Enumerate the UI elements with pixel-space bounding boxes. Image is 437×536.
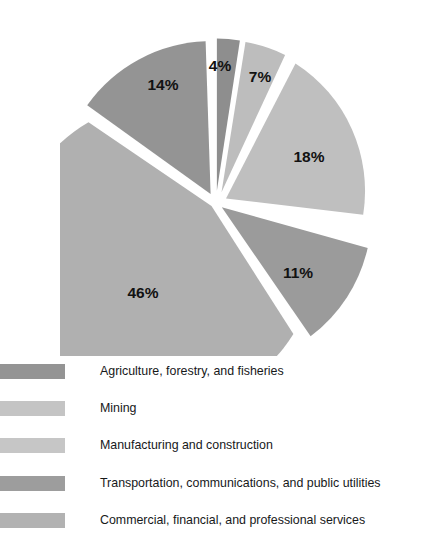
pie-slice-label-11-percent: 11% xyxy=(283,264,313,281)
pie-chart-figure: 4% 7% 18% 11% 46% 14% Agriculture, fores… xyxy=(0,0,437,536)
legend-label-agriculture: Agriculture, forestry, and fisheries xyxy=(100,360,284,383)
legend-label-transportation: Transportation, communications, and publ… xyxy=(100,472,381,495)
pie-slice-label-18-percent: 18% xyxy=(293,148,324,165)
legend-swatch-mining xyxy=(0,401,65,416)
legend-swatch-agriculture xyxy=(0,364,65,379)
pie-slice-label-46-percent: 46% xyxy=(127,284,158,301)
legend-swatch-transportation xyxy=(0,476,65,491)
legend-label-manufacturing: Manufacturing and construction xyxy=(100,434,273,457)
legend-item-agriculture[interactable]: Agriculture, forestry, and fisheries xyxy=(0,360,437,398)
pie-chart-svg: 4% 7% 18% 11% 46% 14% xyxy=(60,28,380,356)
legend-item-mining[interactable]: Mining xyxy=(0,397,437,435)
legend-label-mining: Mining xyxy=(100,397,137,420)
legend-swatch-commercial xyxy=(0,513,65,528)
legend-item-manufacturing[interactable]: Manufacturing and construction xyxy=(0,434,437,472)
legend-item-transportation[interactable]: Transportation, communications, and publ… xyxy=(0,472,437,510)
pie-chart-plot-area: 4% 7% 18% 11% 46% 14% xyxy=(60,28,380,356)
pie-slice-label-14-percent: 14% xyxy=(147,76,178,93)
pie-slice-label-4-percent: 4% xyxy=(209,57,232,74)
legend-swatch-manufacturing xyxy=(0,438,65,453)
chart-legend: Agriculture, forestry, and fisheries Min… xyxy=(0,360,437,536)
legend-label-commercial: Commercial, financial, and professional … xyxy=(100,509,365,532)
pie-slice-label-7-percent: 7% xyxy=(249,68,272,85)
legend-item-commercial[interactable]: Commercial, financial, and professional … xyxy=(0,509,437,536)
